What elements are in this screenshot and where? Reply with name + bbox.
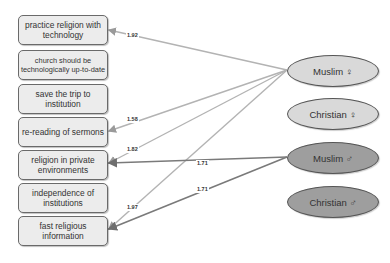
group-label: Muslim ♀ <box>313 66 353 77</box>
node-save-trip-to-institution: save the trip to institution <box>18 84 108 114</box>
node-religion-in-private-environments: religion in private environments <box>18 150 108 180</box>
node-fast-religious-information: fast religious information <box>18 216 108 246</box>
edge-label-fast-f: 1.97 <box>126 204 139 211</box>
edge-label-rereading: 1.58 <box>126 116 139 123</box>
edge-label-practice: 1.92 <box>126 32 139 39</box>
group-christian-male: Christian ♂ <box>287 186 379 218</box>
node-label: religion in private environments <box>19 155 107 175</box>
node-church-technologically-up-to-date: church should be technologically up-to-d… <box>18 50 108 80</box>
edge-label-private-f: 1.82 <box>126 146 139 153</box>
group-label: Christian ♂ <box>309 197 356 208</box>
node-label: save the trip to institution <box>19 89 107 109</box>
node-label: re-reading of sermons <box>22 127 104 137</box>
group-christian-female: Christian ♀ <box>287 98 379 130</box>
edge-label-private-m: 1.71 <box>196 160 209 167</box>
node-label: fast religious information <box>19 221 107 241</box>
node-label: church should be technologically up-to-d… <box>19 56 107 75</box>
edge-label-fast-m: 1.71 <box>196 186 209 193</box>
node-label: practice religion with technology <box>19 20 107 40</box>
node-practice-religion-with-technology: practice religion with technology <box>18 15 108 45</box>
group-muslim-male: Muslim ♂ <box>287 142 379 174</box>
node-re-reading-of-sermons: re-reading of sermons <box>18 117 108 147</box>
edge-muslim-m-fast <box>109 157 287 229</box>
group-muslim-female: Muslim ♀ <box>287 55 379 87</box>
group-label: Christian ♀ <box>309 109 356 120</box>
group-label: Muslim ♂ <box>313 153 353 164</box>
node-independence-of-institutions: independence of institutions <box>18 183 108 213</box>
node-label: independence of institutions <box>19 188 107 208</box>
